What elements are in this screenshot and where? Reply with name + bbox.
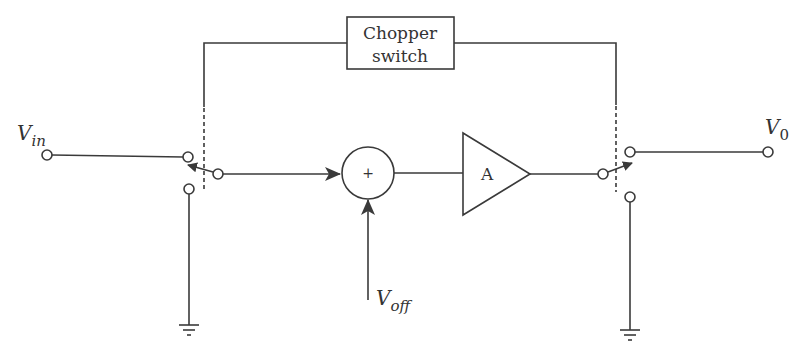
input-switch-contact-bottom [184, 184, 194, 194]
chopper-diagram: Chopper switch Vin + Voff A [0, 0, 802, 363]
input-switch-arm [188, 165, 213, 172]
plus-sign: + [362, 165, 374, 181]
input-switch-contact-top [183, 152, 193, 162]
amplifier: A [463, 133, 530, 215]
input-switch-pole [213, 169, 223, 179]
voff-label: Voff [376, 286, 412, 315]
input-terminal [42, 150, 52, 160]
output-switch: V0 [598, 115, 789, 340]
output-switch-pole [598, 169, 608, 179]
chopper-label-line1: Chopper [363, 23, 438, 43]
output-switch-arm [608, 163, 632, 172]
vin-label: Vin [17, 121, 46, 150]
ground-icon-right [620, 330, 640, 340]
summing-junction: + [342, 147, 394, 199]
input-switch: Vin [17, 121, 223, 335]
ground-icon-left [179, 325, 199, 335]
amplifier-gain-label: A [480, 164, 494, 184]
vo-label: V0 [765, 115, 789, 144]
chopper-switch-block: Chopper switch [204, 17, 616, 192]
output-switch-contact-top [625, 147, 635, 157]
chopper-label-line2: switch [372, 46, 428, 66]
output-terminal [763, 147, 773, 157]
output-switch-contact-bottom [625, 192, 635, 202]
